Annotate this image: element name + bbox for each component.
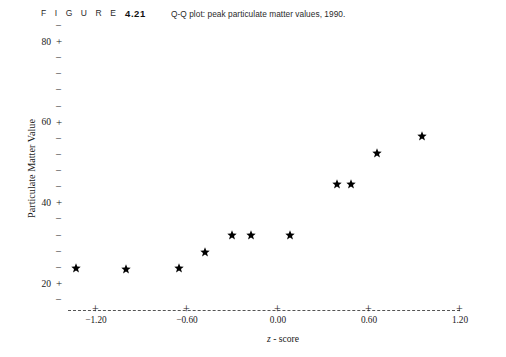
tick-dash-icon: –	[56, 245, 61, 257]
data-point-star-icon	[200, 247, 210, 257]
y-axis-minor-tick: –	[0, 67, 506, 79]
data-point-star-icon	[372, 148, 382, 158]
y-axis-minor-tick: –	[0, 51, 506, 63]
y-axis-major-tick: +80	[0, 35, 506, 47]
tick-dash-icon: –	[56, 132, 61, 144]
y-axis-minor-tick: –	[0, 293, 506, 305]
tick-dash-icon: –	[56, 293, 61, 305]
tick-dash-icon: –	[56, 229, 61, 241]
y-axis-tick-label: 80	[41, 36, 51, 48]
tick-dash-icon: –	[56, 67, 61, 79]
x-axis-tick-label: −1.20	[70, 315, 122, 325]
y-axis-major-tick: +60	[0, 116, 506, 128]
y-axis-minor-tick: –	[0, 83, 506, 95]
tick-plus-icon: +	[365, 303, 372, 315]
tick-dash-icon: –	[56, 51, 61, 63]
x-axis-tick-label: 0.60	[343, 315, 395, 325]
tick-dash-icon: –	[56, 261, 61, 273]
y-axis-minor-tick: –	[0, 132, 506, 144]
tick-plus-icon: +	[56, 196, 62, 208]
data-point-star-icon	[285, 230, 295, 240]
qq-plot-chart: Particulate Matter Value –+80––––+60––––…	[0, 0, 506, 357]
tick-plus-icon: +	[56, 116, 62, 128]
tick-dash-icon: –	[56, 19, 61, 31]
tick-dash-icon: –	[56, 212, 61, 224]
y-axis-tick-label: 20	[41, 278, 51, 290]
tick-plus-icon: +	[56, 35, 62, 47]
x-axis-label-suffix: - score	[271, 333, 299, 344]
x-axis-tick-label: −0.60	[161, 315, 213, 325]
y-axis-minor-tick: –	[0, 164, 506, 176]
data-point-star-icon	[417, 131, 427, 141]
y-axis-minor-tick: –	[0, 212, 506, 224]
y-axis-minor-tick: –	[0, 245, 506, 257]
data-point-star-icon	[71, 263, 81, 273]
tick-plus-icon: +	[183, 303, 190, 315]
x-axis-line	[68, 310, 460, 311]
data-point-star-icon	[246, 230, 256, 240]
y-axis-major-tick: +20	[0, 277, 506, 289]
tick-dash-icon: –	[56, 180, 61, 192]
tick-plus-icon: +	[456, 303, 463, 315]
tick-plus-icon: +	[92, 303, 99, 315]
y-axis-tick-label: 60	[41, 116, 51, 128]
data-point-star-icon	[174, 263, 184, 273]
y-axis-minor-tick: –	[0, 180, 506, 192]
tick-dash-icon: –	[56, 164, 61, 176]
data-point-star-icon	[346, 179, 356, 189]
y-axis-major-tick: +40	[0, 196, 506, 208]
tick-plus-icon: +	[274, 303, 281, 315]
y-axis-minor-tick: –	[0, 19, 506, 31]
y-axis-tick-label: 40	[41, 197, 51, 209]
y-axis-minor-tick: –	[0, 100, 506, 112]
y-axis-minor-tick: –	[0, 148, 506, 160]
data-point-star-icon	[332, 179, 342, 189]
tick-plus-icon: +	[56, 277, 62, 289]
x-axis-tick-label: 0.00	[252, 315, 304, 325]
x-axis-tick-label: 1.20	[434, 315, 486, 325]
data-point-star-icon	[227, 230, 237, 240]
tick-dash-icon: –	[56, 148, 61, 160]
tick-dash-icon: –	[56, 83, 61, 95]
data-point-star-icon	[121, 264, 131, 274]
x-axis-label: z - score	[233, 333, 333, 344]
tick-dash-icon: –	[56, 100, 61, 112]
